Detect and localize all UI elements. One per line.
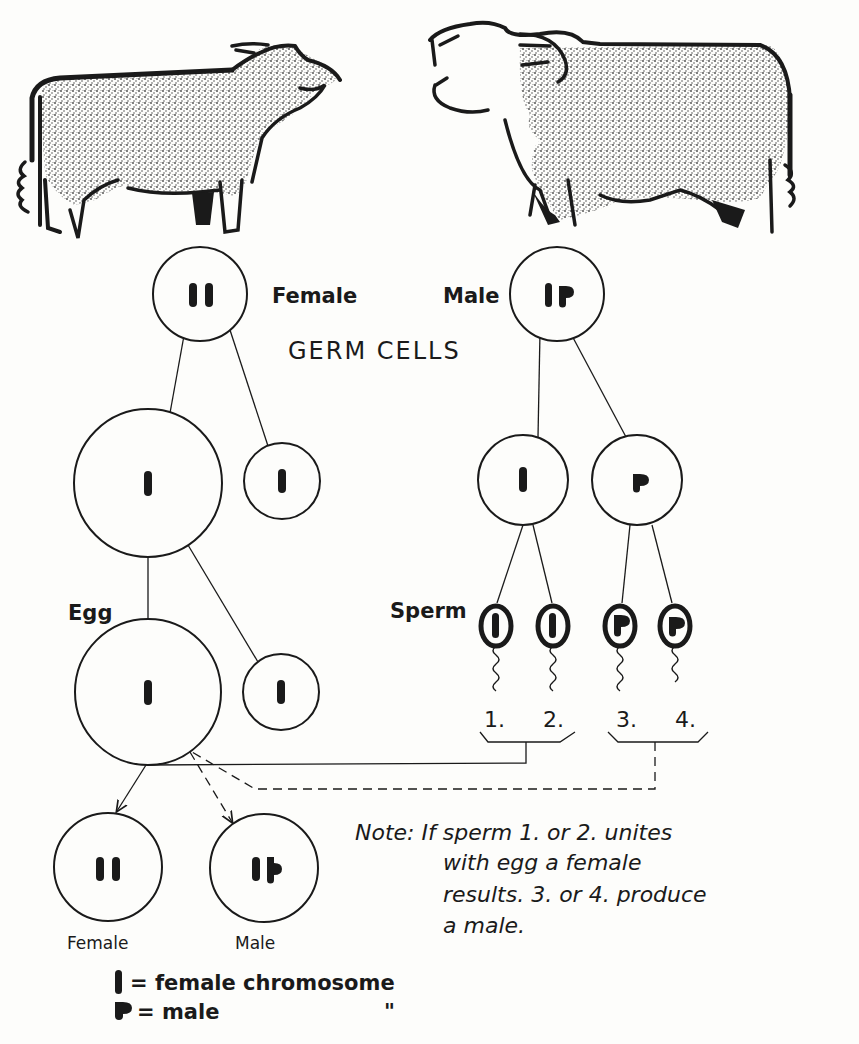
note-text: Note: If sperm 1. or 2. unites with egg … — [355, 820, 707, 938]
male-parent-cell — [510, 247, 604, 341]
female-chromosome-icon — [205, 283, 213, 307]
female-chromosome-icon — [96, 857, 104, 881]
female-parent-cell — [153, 247, 247, 341]
female-chromosome-icon — [519, 467, 527, 492]
offspring-male-cell — [210, 814, 318, 922]
fertilization-connectors — [117, 732, 708, 822]
ram-illustration — [430, 23, 794, 232]
sperm-number-1: 1. — [484, 707, 505, 732]
offspring-male-label: Male — [235, 933, 275, 953]
sperm-number-4: 4. — [675, 707, 696, 732]
egg-label: Egg — [68, 601, 112, 625]
parent-female-label: Female — [272, 284, 357, 308]
note-line-1: Note: If sperm 1. or 2. unites — [355, 820, 672, 845]
parent-male-label: Male — [443, 284, 500, 308]
note-line-4: a male. — [443, 913, 525, 938]
male-chromosome-icon — [115, 1002, 132, 1020]
female-chromosome-icon — [189, 283, 197, 307]
female-chromosome-icon — [144, 471, 152, 496]
female-chromosome-icon — [115, 970, 122, 994]
female-chromosome-icon — [278, 469, 286, 493]
legend-ditto-mark: " — [384, 1000, 395, 1024]
sperm-3 — [605, 606, 635, 691]
female-chromosome-icon — [252, 857, 260, 881]
sperm-4 — [660, 606, 690, 682]
chromosomes — [96, 283, 649, 884]
sperm-1 — [481, 606, 511, 691]
legend-male-text: = male — [137, 1000, 219, 1024]
legend-female-text: = female chromosome — [130, 971, 395, 995]
sperm-label: Sperm — [390, 599, 467, 623]
sperm-cells — [481, 606, 690, 691]
female-chromosome-icon — [545, 283, 552, 307]
sperm-number-3: 3. — [616, 707, 637, 732]
sperm-2 — [538, 606, 568, 691]
female-chromosome-icon — [144, 680, 152, 705]
sex-determination-diagram: Female Male GERM CELLS Egg Sperm 1. 2. 3… — [0, 0, 859, 1044]
ewe-illustration — [18, 44, 340, 238]
offspring-female-label: Female — [67, 933, 128, 953]
note-line-2: with egg a female — [443, 850, 641, 875]
sperm-number-2: 2. — [543, 707, 564, 732]
diagram-title: GERM CELLS — [288, 337, 461, 365]
female-chromosome-icon — [112, 857, 120, 881]
offspring-female-cell — [54, 813, 162, 921]
note-line-3: results. 3. or 4. produce — [443, 882, 707, 907]
legend: = female chromosome = male " — [115, 970, 395, 1024]
female-chromosome-icon — [277, 680, 285, 704]
